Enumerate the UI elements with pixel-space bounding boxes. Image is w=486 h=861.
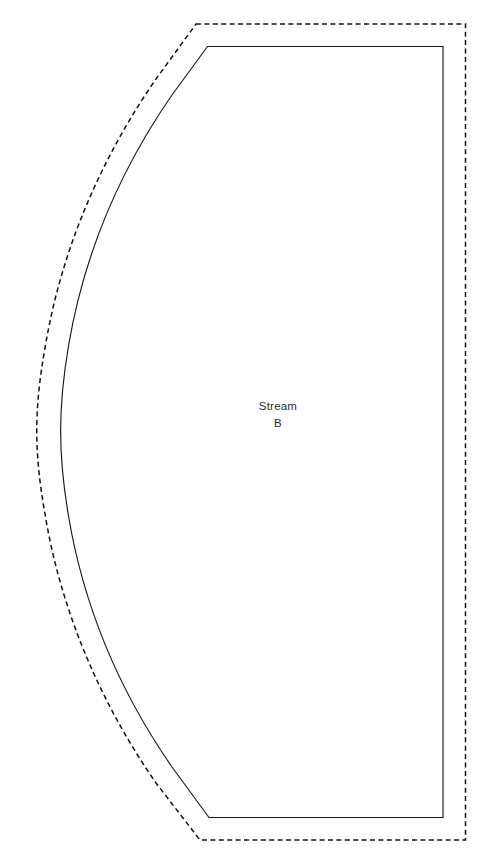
stream-region-outline [61,47,443,818]
diagram-canvas: Stream B [0,0,486,861]
stream-region-diagram: Stream B [0,0,486,861]
stream-region-label-line2: B [274,417,282,429]
stream-region-label-line1: Stream [259,400,297,412]
offset-boundary-outline [37,24,466,840]
